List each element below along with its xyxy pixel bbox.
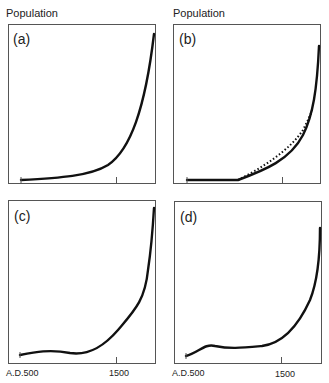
- plot-frame: [9, 201, 156, 364]
- population-curve: [187, 46, 319, 180]
- panel-label: (d): [180, 209, 197, 225]
- panel-label: (a): [13, 31, 30, 47]
- plot-frame: [9, 25, 156, 184]
- panel-label: (c): [14, 208, 30, 224]
- x-tick-label-start: A.D.500: [172, 368, 205, 378]
- x-tick-label-1500: 1500: [275, 369, 295, 379]
- panel-a: Population (a): [6, 7, 156, 184]
- population-curve: [20, 208, 154, 355]
- y-axis-label: Population: [173, 7, 225, 19]
- plot-frame: [174, 25, 321, 184]
- plot-frame: [175, 202, 322, 364]
- panel-c: (c) A.D.500 1500: [6, 201, 156, 379]
- panel-label: (b): [179, 31, 196, 47]
- population-curve: [21, 34, 154, 180]
- panel-b: Population (b): [173, 7, 321, 184]
- panel-d: (d) A.D.500 1500: [172, 202, 322, 380]
- y-axis-label: Population: [6, 7, 58, 19]
- x-tick-label-start: A.D.500: [6, 368, 39, 378]
- population-curve: [186, 228, 320, 356]
- population-growth-figure: Population (a) Population (b) (c) A.D.50…: [0, 0, 329, 383]
- x-tick-label-1500: 1500: [109, 368, 129, 378]
- alternative-dotted-curve: [238, 110, 312, 180]
